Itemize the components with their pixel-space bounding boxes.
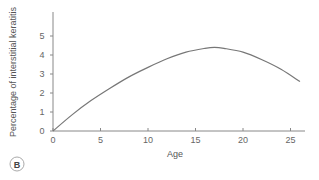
x-tick-label: 10 [143, 135, 153, 145]
x-tick-label: 5 [98, 135, 103, 145]
panel-badge: B [10, 157, 24, 171]
y-tick-label: 2 [39, 88, 44, 98]
axes [53, 12, 305, 131]
x-axis-label: Age [167, 149, 183, 159]
y-ticks: 012345 [39, 31, 53, 136]
y-tick-label: 1 [39, 107, 44, 117]
x-tick-label: 15 [190, 135, 200, 145]
series-line [53, 47, 300, 131]
x-tick-label: 20 [238, 135, 248, 145]
x-tick-label: 25 [285, 135, 295, 145]
y-tick-label: 3 [39, 69, 44, 79]
y-axis-label: Percentage of interstitial keratitis [8, 6, 18, 137]
x-tick-label: 0 [50, 135, 55, 145]
chart-canvas: 0510152025 012345 Age Percentage of inte… [0, 0, 319, 180]
y-tick-label: 0 [39, 126, 44, 136]
panel-label: B [14, 160, 21, 170]
y-tick-label: 5 [39, 31, 44, 41]
y-tick-label: 4 [39, 50, 44, 60]
